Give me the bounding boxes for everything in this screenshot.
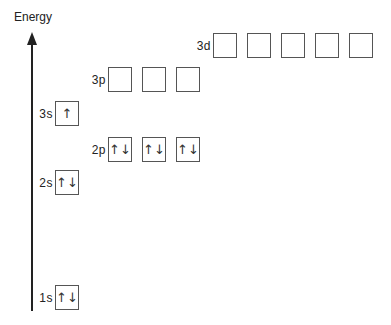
orbital-label-2p: 2p — [88, 143, 106, 157]
orbital-box — [247, 33, 271, 58]
orbital-label-1s: 1s — [35, 291, 53, 305]
orbital-box: ↑↓ — [108, 137, 132, 162]
orbital-3p: 3p — [88, 67, 200, 92]
orbital-box: ↑ — [55, 101, 79, 126]
orbital-box: ↑↓ — [176, 137, 200, 162]
orbital-box — [108, 67, 132, 92]
orbital-1s: 1s ↑↓ — [35, 285, 79, 310]
orbital-box — [213, 33, 237, 58]
orbital-box — [349, 33, 373, 58]
orbital-box — [315, 33, 339, 58]
orbital-box: ↑↓ — [55, 285, 79, 310]
orbital-2p: 2p ↑↓ ↑↓ ↑↓ — [88, 137, 200, 162]
orbital-label-3d: 3d — [193, 39, 211, 53]
orbital-box: ↑↓ — [142, 137, 166, 162]
orbital-3s: 3s ↑ — [35, 101, 79, 126]
orbital-box — [281, 33, 305, 58]
orbital-label-3s: 3s — [35, 107, 53, 121]
orbital-box — [176, 67, 200, 92]
orbital-2s: 2s ↑↓ — [35, 170, 79, 195]
orbital-3d: 3d — [193, 33, 373, 58]
orbital-label-2s: 2s — [35, 176, 53, 190]
energy-axis-title: Energy — [14, 10, 52, 24]
orbital-box — [142, 67, 166, 92]
orbital-label-3p: 3p — [88, 73, 106, 87]
energy-axis-line — [31, 44, 33, 311]
orbital-box: ↑↓ — [55, 170, 79, 195]
